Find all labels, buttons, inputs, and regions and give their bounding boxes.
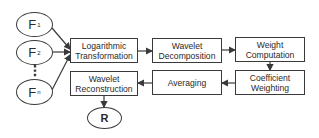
step-label-line1: Coefficient (250, 73, 290, 83)
step-label-line1: Weight (246, 40, 295, 50)
input-f1: F1 (16, 12, 53, 37)
input-subscript: n (37, 89, 40, 95)
output-label: R (101, 112, 109, 124)
step-wavelet-decomposition: WaveletDecomposition (152, 38, 222, 63)
step-logarithmic-transformation: LogarithmicTransformation (70, 38, 138, 63)
step-label-line2: Transformation (75, 51, 132, 61)
step-wavelet-reconstruction: WaveletReconstruction (70, 71, 138, 96)
step-weight-computation: WeightComputation (235, 37, 305, 62)
step-label-line1: Wavelet (75, 74, 132, 84)
input-subscript: 2 (37, 50, 40, 56)
input-subscript: 1 (37, 22, 40, 28)
step-averaging: Averaging (152, 70, 222, 95)
step-label-line1: Averaging (168, 78, 207, 88)
step-label-line1: Wavelet (159, 41, 216, 51)
step-coefficient-weighting: CoefficientWeighting (235, 70, 305, 95)
step-label-line2: Reconstruction (75, 84, 132, 94)
input-fn: Fn (16, 79, 53, 105)
step-label-line1: Logarithmic (75, 41, 132, 51)
output-r: R (87, 107, 122, 129)
input-f2: F2 (16, 40, 53, 65)
input-label: F (28, 85, 36, 100)
input-label: F (28, 17, 36, 32)
step-label-line2: Computation (246, 50, 295, 60)
step-label-line2: Weighting (250, 83, 290, 93)
step-label-line2: Decomposition (159, 51, 216, 61)
input-label: F (28, 45, 36, 60)
